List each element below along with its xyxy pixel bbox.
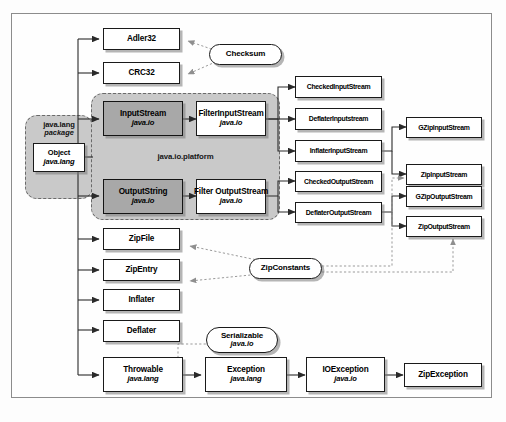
node-zip-exception-name: ZipException [418, 371, 468, 380]
node-filter-input-stream[interactable]: FilterInputStream java.io [196, 101, 266, 136]
node-io-exception[interactable]: IOException java.io [306, 357, 385, 392]
node-zip-input-stream[interactable]: ZipInputStream [406, 164, 482, 185]
node-deflater-output-stream[interactable]: DeflaterOutputStream [295, 202, 382, 223]
node-input-stream[interactable]: InputStream java.io [103, 101, 183, 136]
node-exception-pkg: java.lang [230, 375, 261, 383]
node-zip-entry[interactable]: ZipEntry [103, 259, 180, 281]
node-object-pkg: java.lang [43, 158, 74, 166]
node-inflater-name: Inflater [128, 296, 154, 305]
node-checked-input-stream-name: CheckedInputStream [307, 83, 371, 90]
node-output-string[interactable]: OutputString java.io [103, 179, 183, 214]
node-gzip-output-stream[interactable]: GZipOutputStream [406, 186, 482, 207]
node-zip-file[interactable]: ZipFile [103, 228, 180, 250]
node-throwable-pkg: java.lang [127, 375, 158, 383]
node-throwable[interactable]: Throwable java.lang [103, 357, 183, 392]
node-gzip-output-stream-name: GZipOutputStream [416, 193, 473, 200]
class-diagram-canvas: java.lang package java.io.platform [0, 0, 506, 422]
node-zip-file-name: ZipFile [129, 235, 154, 244]
node-crc32-name: CRC32 [128, 69, 154, 78]
node-filter-input-stream-pkg: java.io [220, 119, 243, 127]
node-checked-output-stream-name: CheckedOutputStream [304, 178, 373, 185]
interface-checksum-name: Checksum [226, 50, 265, 58]
node-filter-output-stream-pkg: java.io [220, 197, 243, 205]
node-filter-output-stream[interactable]: Filter OutputStream java.io [196, 179, 266, 214]
node-inflater[interactable]: Inflater [103, 289, 180, 311]
interface-serializable-pkg: java.io [230, 340, 253, 348]
interface-checksum[interactable]: Checksum [209, 44, 282, 65]
interface-zip-constants[interactable]: ZipConstants [249, 258, 322, 279]
node-deflater-output-stream-name: DeflaterOutputStream [306, 209, 372, 216]
node-zip-output-stream[interactable]: ZipOutputStream [406, 216, 482, 237]
node-checked-input-stream[interactable]: CheckedInputStream [295, 76, 382, 98]
node-object-name: Object [48, 149, 70, 157]
node-inflater-input-stream-name: InflaterInputStream [310, 147, 367, 154]
node-output-string-pkg: java.io [132, 197, 155, 205]
node-gzip-input-stream[interactable]: GZipInputStream [406, 117, 482, 138]
node-zip-input-stream-name: ZipInputStream [421, 171, 467, 178]
interface-zip-constants-name: ZipConstants [261, 264, 310, 272]
interface-serializable[interactable]: Serializable java.io [206, 327, 278, 353]
node-object[interactable]: Object java.lang [33, 143, 85, 172]
node-zip-exception[interactable]: ZipException [404, 363, 482, 387]
node-inflater-input-stream[interactable]: InflaterInputStream [295, 140, 382, 162]
node-input-stream-pkg: java.io [132, 119, 155, 127]
node-deflater-input-stream-name: DeflaterInputstream [309, 115, 368, 122]
node-adler32[interactable]: Adler32 [103, 28, 180, 50]
node-io-exception-pkg: java.io [334, 375, 357, 383]
node-exception[interactable]: Exception java.lang [205, 357, 287, 392]
node-checked-output-stream[interactable]: CheckedOutputStream [295, 171, 382, 192]
node-zip-entry-name: ZipEntry [125, 266, 157, 275]
node-deflater-name: Deflater [127, 327, 156, 336]
node-deflater-input-stream[interactable]: DeflaterInputstream [295, 108, 382, 130]
node-zip-output-stream-name: ZipOutputStream [418, 223, 470, 230]
node-deflater[interactable]: Deflater [103, 320, 180, 342]
node-gzip-input-stream-name: GZipInputStream [418, 124, 469, 131]
node-adler32-name: Adler32 [127, 35, 156, 44]
node-crc32[interactable]: CRC32 [103, 62, 180, 84]
